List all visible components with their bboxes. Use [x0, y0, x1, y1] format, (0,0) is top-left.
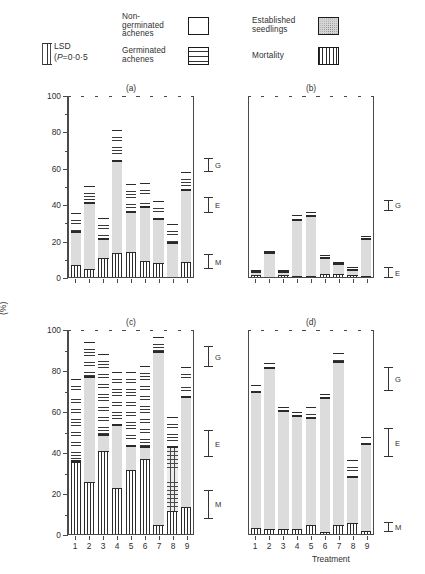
bar-segment-germinated [98, 354, 108, 435]
stacked-bar[interactable] [333, 331, 343, 534]
stacked-bar[interactable] [264, 331, 274, 534]
bar-segment-germinated [333, 353, 343, 362]
bar-segment-non-germinated [320, 95, 330, 255]
bar-segment-mortality [278, 529, 288, 534]
bar-segment-non-germinated [306, 95, 316, 212]
stacked-bar[interactable] [181, 331, 191, 534]
bar-segment-mortality [333, 274, 343, 277]
bar-segment-mortality [167, 511, 177, 534]
stacked-bar[interactable] [251, 97, 261, 277]
stacked-bar[interactable] [278, 331, 288, 534]
lsd-marker-label: G [215, 161, 221, 170]
panel-d: (d)123456789GEM [248, 330, 374, 535]
legend-column-right: Established seedlings Mortality [252, 14, 339, 74]
stacked-bar[interactable] [112, 97, 122, 277]
stacked-bar[interactable] [71, 331, 81, 534]
bar-segment-established [361, 444, 371, 531]
x-tick: 3 [96, 536, 110, 552]
bar-group [69, 331, 193, 534]
stacked-bar[interactable] [264, 97, 274, 277]
panel-a: (a)020406080100GEM [68, 96, 194, 278]
bar-segment-non-germinated [71, 329, 81, 379]
stacked-bar[interactable] [333, 97, 343, 277]
stacked-bar[interactable] [181, 97, 191, 277]
bar-segment-mortality [251, 528, 261, 534]
stacked-bar[interactable] [320, 331, 330, 534]
stacked-bar[interactable] [347, 97, 357, 277]
bar-slot [124, 97, 138, 277]
bar-segment-germinated [126, 184, 136, 212]
stacked-bar[interactable] [292, 331, 302, 534]
bar-segment-non-germinated [181, 329, 191, 367]
bar-slot [97, 97, 111, 277]
stacked-bar[interactable] [112, 331, 122, 534]
stacked-bar[interactable] [98, 331, 108, 534]
bar-slot [179, 331, 193, 534]
panel-title: (b) [248, 83, 374, 93]
bar-segment-established [361, 239, 371, 275]
bar-segment-germinated [278, 270, 288, 273]
stacked-bar[interactable] [84, 97, 94, 277]
bar-segment-non-germinated [98, 329, 108, 354]
bar-segment-mortality [306, 276, 316, 277]
stacked-bar[interactable] [278, 97, 288, 277]
stacked-bar[interactable] [167, 97, 177, 277]
x-tick-label: 2 [82, 541, 96, 551]
bar-slot [165, 97, 179, 277]
x-tick [82, 279, 96, 295]
lsd-marker-G: G [204, 346, 226, 367]
x-tick [248, 279, 262, 295]
stacked-bar[interactable] [140, 97, 150, 277]
x-tick [318, 279, 332, 295]
legend-item-established-seedlings: Established seedlings [252, 14, 339, 38]
bar-segment-non-germinated [292, 95, 302, 215]
y-tick-label: 0 [56, 530, 61, 540]
stacked-bar[interactable] [153, 331, 163, 534]
figure-canvas: LSD (P=0·0·5 Non- germinated achenes Ger… [0, 0, 425, 574]
stacked-bar[interactable] [361, 97, 371, 277]
bar-segment-non-germinated [347, 95, 357, 267]
stacked-bar[interactable] [361, 331, 371, 534]
stacked-bar[interactable] [251, 331, 261, 534]
lsd-marker-label: M [215, 257, 221, 266]
bar-slot [304, 331, 318, 534]
bar-slot [277, 331, 291, 534]
bar-segment-non-germinated [361, 329, 371, 437]
bar-slot [249, 331, 263, 534]
bar-segment-mortality [71, 265, 81, 277]
x-tick-label: 7 [332, 541, 346, 551]
bar-segment-mortality [292, 529, 302, 534]
bar-slot [110, 97, 124, 277]
mortality-swatch-icon [318, 47, 339, 65]
bar-segment-established [140, 447, 150, 459]
bar-segment-established [347, 270, 357, 275]
stacked-bar[interactable] [140, 331, 150, 534]
bar-segment-non-germinated [112, 329, 122, 372]
stacked-bar[interactable] [306, 331, 316, 534]
stacked-bar[interactable] [126, 97, 136, 277]
stacked-bar[interactable] [84, 331, 94, 534]
x-tick: 9 [360, 536, 374, 552]
bar-segment-non-germinated [140, 95, 150, 183]
bar-slot [318, 331, 332, 534]
legend-column-left: Non- germinated achenes Germinated achen… [122, 14, 209, 74]
stacked-bar[interactable] [292, 97, 302, 277]
stacked-bar[interactable] [71, 97, 81, 277]
x-tick [152, 279, 166, 295]
x-tick-label: 3 [276, 541, 290, 551]
stacked-bar[interactable] [347, 331, 357, 534]
bar-segment-germinated [320, 255, 330, 258]
x-tick-label: 1 [68, 541, 82, 551]
stacked-bar[interactable] [98, 97, 108, 277]
stacked-bar[interactable] [320, 97, 330, 277]
stacked-bar[interactable] [167, 331, 177, 534]
x-tick [262, 279, 276, 295]
x-tick: 8 [166, 536, 180, 552]
stacked-bar[interactable] [306, 97, 316, 277]
stacked-bar[interactable] [126, 331, 136, 534]
stacked-bar[interactable] [153, 97, 163, 277]
bar-segment-germinated [292, 412, 302, 416]
lsd-marker-label: M [395, 522, 401, 531]
legend-label: Non- germinated achenes [122, 13, 184, 39]
plot-area [68, 96, 194, 278]
